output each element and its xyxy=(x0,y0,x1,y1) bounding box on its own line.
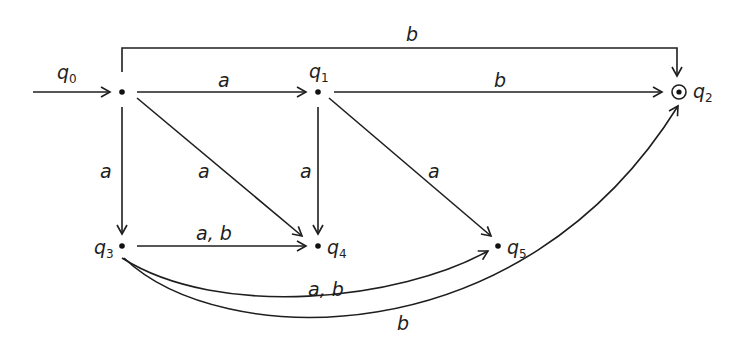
state-label-q0: q0 xyxy=(57,61,77,86)
label-q3-q4: a, b xyxy=(196,222,232,244)
state-q0 xyxy=(119,89,125,95)
state-q5 xyxy=(495,243,501,249)
label-q3-q5: a, b xyxy=(308,278,344,300)
edge-q1-q5 xyxy=(329,98,491,236)
label-q0-q1: a xyxy=(218,69,230,91)
label-q3-q2: b xyxy=(397,312,409,334)
state-label-q3: q3 xyxy=(94,236,114,261)
state-q2 xyxy=(672,85,686,99)
label-q0-q4: a xyxy=(198,160,210,182)
state-label-q2: q2 xyxy=(693,80,713,105)
label-q1-q2: b xyxy=(494,69,506,91)
state-label-q5: q5 xyxy=(507,236,527,261)
label-q1-q4: a xyxy=(300,160,312,182)
state-label-q4: q4 xyxy=(327,236,347,261)
label-q0-q3: a xyxy=(100,160,112,182)
automaton-diagram: q0 q1 q2 q3 q4 q5 a b a a b a a a, b a, … xyxy=(0,0,746,353)
state-q4 xyxy=(315,243,321,249)
edge-q3-q5 xyxy=(122,251,488,297)
label-q1-q5: a xyxy=(428,160,440,182)
state-q1 xyxy=(315,89,321,95)
state-label-q1: q1 xyxy=(309,60,329,85)
state-q3 xyxy=(119,243,125,249)
edge-q3-q2 xyxy=(124,106,678,317)
edge-q0-q4 xyxy=(137,98,302,236)
edge-q0-q2 xyxy=(122,48,677,76)
label-q0-q2: b xyxy=(406,23,418,45)
